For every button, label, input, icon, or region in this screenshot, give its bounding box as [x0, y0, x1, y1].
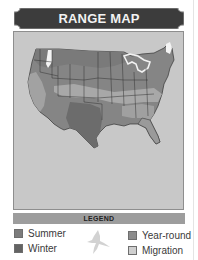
page-title: RANGE MAP: [14, 8, 184, 29]
summer-swatch-icon: [14, 229, 23, 238]
page-edge-divider: [193, 0, 194, 260]
legend-label: Winter: [28, 243, 57, 254]
year-round-swatch-icon: [128, 231, 137, 240]
legend-item-year-round: Year-round: [128, 229, 191, 241]
range-map-banner: RANGE MAP: [14, 8, 184, 29]
legend-item-migration: Migration: [128, 244, 183, 256]
legend-label: Year-round: [142, 230, 191, 241]
bird-silhouette-icon: [84, 228, 112, 256]
migration-swatch-icon: [128, 246, 137, 255]
legend-label: Summer: [28, 228, 66, 239]
us-map-icon: [14, 32, 185, 211]
legend-label: Migration: [142, 245, 183, 256]
legend-item-summer: Summer: [14, 227, 66, 239]
winter-swatch-icon: [14, 244, 23, 253]
range-map: [13, 31, 184, 210]
legend-item-winter: Winter: [14, 242, 57, 254]
legend-header: LEGEND: [13, 213, 185, 224]
